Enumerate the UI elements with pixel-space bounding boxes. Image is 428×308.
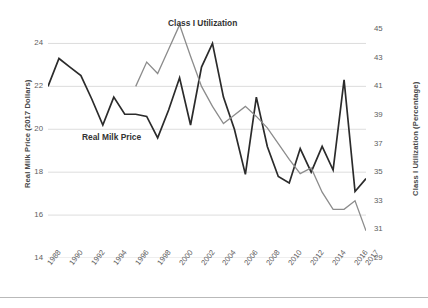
series-line-real-milk-price — [48, 43, 366, 191]
y-tick-right-43: 43 — [374, 54, 396, 62]
y-tick-left-24: 24 — [21, 39, 43, 47]
y-tick-right-35: 35 — [374, 168, 396, 176]
y-tick-left-14: 14 — [21, 254, 43, 262]
series-lines — [48, 25, 366, 231]
y-tick-right-33: 33 — [374, 197, 396, 205]
y-tick-left-22: 22 — [21, 82, 43, 90]
y-tick-left-18: 18 — [21, 168, 43, 176]
figure-caption — [4, 300, 424, 308]
y-tick-right-45: 45 — [374, 25, 396, 33]
chart-figure: Real Milk Price (2017 Dollars) Class I U… — [0, 0, 428, 308]
y-tick-right-41: 41 — [374, 82, 396, 90]
y-tick-right-37: 37 — [374, 140, 396, 148]
y-tick-right-39: 39 — [374, 111, 396, 119]
y-axis-left-title: Real Milk Price (2017 Dollars) — [24, 54, 32, 214]
series-label-real-milk-price: Real Milk Price — [82, 133, 141, 141]
footer-divider — [0, 297, 428, 298]
y-tick-left-20: 20 — [21, 125, 43, 133]
gridlines — [48, 43, 366, 258]
y-tick-left-16: 16 — [21, 211, 43, 219]
series-label-class-i-utilization: Class I Utilization — [168, 19, 237, 27]
y-axis-right-title: Class I Utilization (Percentage) — [412, 59, 420, 219]
y-tick-right-31: 31 — [374, 225, 396, 233]
series-line-class-i-utilization — [136, 25, 366, 231]
